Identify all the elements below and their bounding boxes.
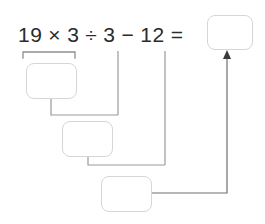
step-box-2[interactable]	[62, 121, 113, 157]
operand-12: 12	[140, 20, 164, 50]
connector-step3-to-answer	[152, 58, 227, 193]
final-answer-value	[208, 16, 252, 49]
equation-row: 19 × 3 ÷ 3 − 12 =	[18, 20, 189, 50]
operand-3-second: 3	[103, 20, 115, 50]
final-answer-box[interactable]	[207, 15, 253, 50]
operator-multiply-icon: ×	[48, 20, 61, 50]
worksheet-canvas: 19 × 3 ÷ 3 − 12 =	[0, 0, 265, 224]
operator-minus-icon: −	[122, 20, 135, 50]
connector-step1-to-step2	[51, 99, 118, 115]
arrowhead-icon	[223, 50, 231, 59]
step-box-2-value	[63, 122, 112, 156]
operand-3-first: 3	[67, 20, 79, 50]
connector-step2-to-step3	[88, 157, 165, 165]
operator-divide-icon: ÷	[85, 20, 97, 50]
grouping-bracket-19-times-3	[23, 52, 75, 58]
step-box-1[interactable]	[26, 63, 77, 99]
step-box-3-value	[102, 177, 151, 211]
operand-19: 19	[18, 20, 42, 50]
step-box-1-value	[27, 64, 76, 98]
step-box-3[interactable]	[101, 176, 152, 212]
operator-equals-icon: =	[171, 20, 184, 50]
